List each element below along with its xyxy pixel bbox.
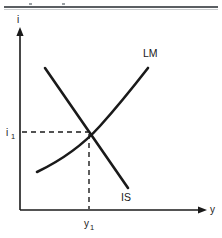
x-tick-label-y1-subscript: 1: [90, 223, 94, 232]
y-tick-label-i1-subscript: 1: [11, 132, 15, 141]
lm-curve: [37, 68, 148, 172]
is-lm-chart: i y LM IS i 1 y 1: [0, 0, 222, 238]
is-lm-svg: i y LM IS i 1 y 1: [0, 0, 222, 238]
x-axis-arrow-icon: [198, 206, 207, 213]
lm-curve-label: LM: [143, 47, 158, 59]
y-axis-arrow-icon: [16, 27, 23, 36]
is-curve: [45, 68, 128, 188]
figure-page: i y LM IS i 1 y 1: [0, 0, 222, 238]
y-axis-label: i: [17, 14, 19, 25]
is-curve-label: IS: [121, 191, 131, 203]
x-axis-label: y: [210, 204, 215, 215]
x-tick-label-y1: y: [84, 218, 89, 229]
y-tick-label-i1: i: [6, 127, 8, 138]
